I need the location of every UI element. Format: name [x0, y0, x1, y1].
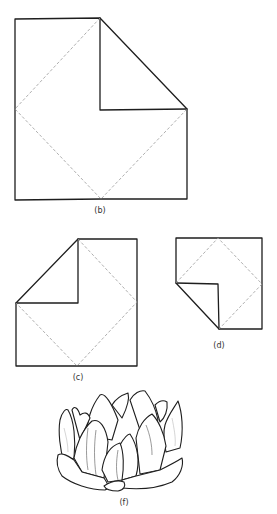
figure-f-label: (f): [119, 498, 128, 507]
figure-d-label: (d): [213, 341, 224, 350]
figure-c-drawing: [16, 239, 137, 366]
figure-f-lotus-drawing: [57, 391, 182, 491]
figure-b-drawing: [15, 18, 187, 200]
figure-b-label: (b): [94, 206, 105, 215]
figure-d-drawing: [176, 238, 262, 329]
figure-c-label: (c): [73, 373, 84, 382]
diagram-canvas: [0, 0, 277, 514]
